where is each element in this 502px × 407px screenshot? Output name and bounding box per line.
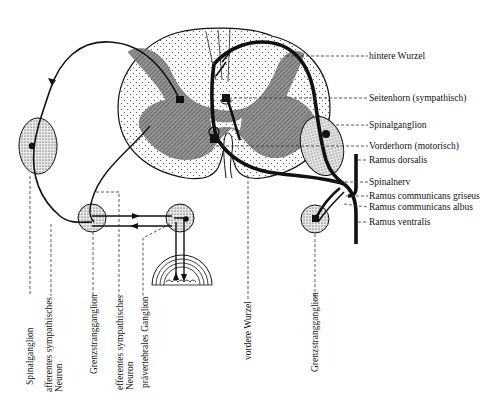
label-ramus-comm-albus: Ramus communicans albus <box>369 202 473 212</box>
label-ramus-dorsalis: Ramus dorsalis <box>369 155 427 165</box>
label-vorderhorn: Vorderhorn (motorisch) <box>369 141 459 151</box>
label-afferentes-neuron: afferentes sympathischesNeuron <box>44 297 64 392</box>
label-seitenhorn: Seitenhorn (sympathisch) <box>369 93 466 103</box>
target-organ <box>152 255 212 285</box>
label-grenzstrangganglion-left: Grenzstrangganglion <box>89 294 99 374</box>
label-praevertebrales-ganglion: prävertebrales Ganglion <box>140 296 150 388</box>
label-efferentes-neuron: efferentes sympathischesNeuron <box>115 295 135 390</box>
label-hintere-wurzel: hintere Wurzel <box>369 51 425 61</box>
label-vordere-wurzel: vordere Wurzel <box>243 301 253 360</box>
label-grenzstrangganglion-right: Grenzstrangganglion <box>310 292 320 372</box>
label-ramus-comm-griseus: Ramus communicans griseus <box>369 191 480 201</box>
label-spinalganglion-right: Spinalganglion <box>369 120 427 130</box>
label-spinalnerv: Spinalnerv <box>369 177 410 187</box>
label-ramus-ventralis: Ramus ventralis <box>369 217 430 227</box>
label-spinalganglion-left: Spinalganglion <box>25 327 35 385</box>
